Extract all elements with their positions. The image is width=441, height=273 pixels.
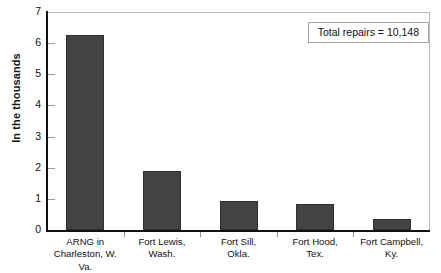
y-tick-label: 4	[0, 98, 41, 110]
x-category-label-line: Fort Lewis,	[124, 236, 201, 248]
y-tick-label: 3	[0, 130, 41, 142]
y-tick-label: 5	[0, 67, 41, 79]
x-category-label-line: Okla.	[200, 248, 277, 260]
x-category-label: Fort Lewis,Wash.	[124, 236, 201, 261]
x-axis-line	[46, 230, 430, 232]
x-axis-category-labels: ARNG inCharleston, W. Va.Fort Lewis,Wash…	[47, 236, 430, 267]
x-category-label-line: Charleston, W. Va.	[47, 248, 124, 273]
x-category-label-line: Wash.	[124, 248, 201, 260]
bar	[373, 219, 411, 230]
bar	[296, 204, 334, 230]
x-category-label-line: Fort Sill,	[200, 236, 277, 248]
bar-series	[47, 12, 430, 230]
x-category-label: Fort Campbell,Ky.	[353, 236, 430, 261]
total-repairs-annotation: Total repairs = 10,148	[308, 22, 429, 43]
bar	[220, 201, 258, 230]
x-category-label-line: Ky.	[353, 248, 430, 260]
bar	[66, 35, 104, 230]
bar	[143, 171, 181, 230]
y-tick-label: 0	[0, 223, 41, 235]
y-tick-label: 2	[0, 161, 41, 173]
y-tick-label: 7	[0, 5, 41, 17]
y-tick-label: 6	[0, 36, 41, 48]
x-category-label: Fort Hood,Tex.	[277, 236, 354, 261]
y-tick-label: 1	[0, 192, 41, 204]
x-category-label: ARNG inCharleston, W. Va.	[47, 236, 124, 273]
x-category-label-line: Fort Campbell,	[353, 236, 430, 248]
x-category-label-line: Fort Hood,	[277, 236, 354, 248]
x-category-label: Fort Sill,Okla.	[200, 236, 277, 261]
x-category-label-line: ARNG in	[47, 236, 124, 248]
x-category-label-line: Tex.	[277, 248, 354, 260]
